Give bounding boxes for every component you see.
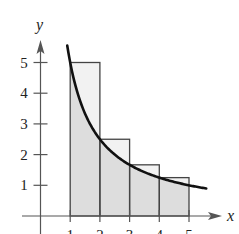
y-tick-label: 4: [20, 85, 28, 101]
x-axis-label: x: [226, 207, 234, 224]
y-tick-label: 2: [20, 147, 28, 163]
x-tick-label: 2: [96, 227, 104, 234]
y-tick-label: 3: [20, 116, 28, 132]
x-tick-label: 3: [126, 227, 134, 234]
chart: 1234512345xy: [0, 0, 239, 234]
y-tick-label: 5: [20, 55, 28, 71]
x-tick-label: 1: [66, 227, 74, 234]
y-tick-label: 1: [20, 177, 28, 193]
x-tick-label: 5: [185, 227, 193, 234]
y-axis-label: y: [34, 16, 44, 34]
x-tick-label: 4: [156, 227, 164, 234]
